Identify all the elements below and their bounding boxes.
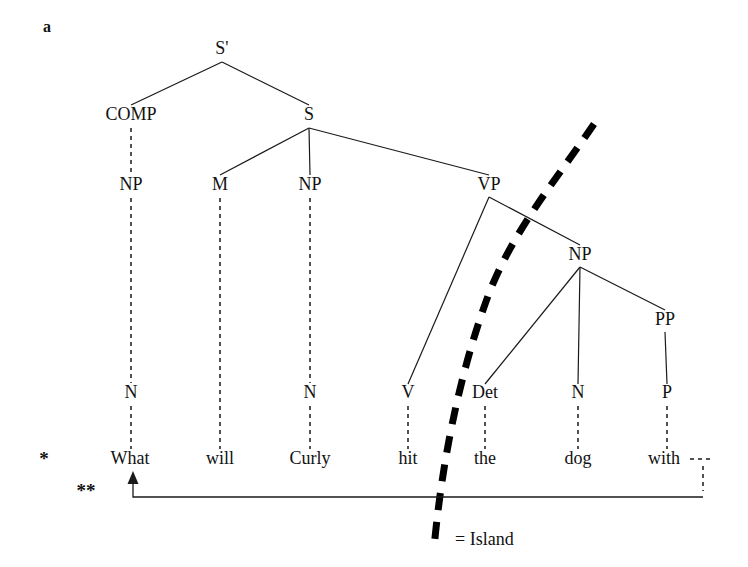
tree-terminal-t-the: the [474, 448, 496, 468]
tree-terminal-t-dog: dog [565, 448, 592, 468]
tree-node-np2: NP [298, 174, 321, 194]
tree-node-np3: NP [568, 244, 591, 264]
movement-arrowhead-icon [128, 471, 139, 484]
tree-edge-s-np2 [309, 128, 310, 175]
trace-marker-dashes [690, 459, 712, 491]
tree-edge-np3-pp [580, 267, 665, 310]
tree-terminal-t-curly: Curly [289, 448, 330, 468]
wh-movement-arc [133, 477, 703, 497]
tree-node-vp: VP [477, 174, 500, 194]
figure-canvas: a S'COMPSNPMNPVPNPPPNNVDetNP WhatwillCur… [0, 0, 748, 567]
tree-edge-pp-p [665, 332, 667, 384]
tree-terminal-t-hit: hit [398, 448, 417, 468]
syntax-tree-diagram: a S'COMPSNPMNPVPNPPPNNVDetNP WhatwillCur… [0, 0, 748, 567]
tree-terminal-t-will: will [206, 448, 234, 468]
tree-node-pp: PP [655, 309, 675, 329]
tree-edge-s-vp [309, 128, 489, 175]
tree-edge-np3-det [485, 267, 580, 384]
tree-node-det: Det [472, 382, 498, 402]
tree-terminal-t-what: What [111, 448, 150, 468]
tree-edge-vp-v [408, 197, 489, 384]
tree-node-sbar: S' [215, 38, 228, 58]
panel-label-a: a [43, 18, 51, 35]
tree-node-n1: N [125, 382, 138, 402]
tree-node-p: P [662, 382, 672, 402]
tree-terminal-words: WhatwillCurlyhitthedogwith [111, 448, 681, 468]
tree-node-n2: N [304, 382, 317, 402]
grammaticality-star-double: ** [77, 480, 96, 501]
tree-solid-branches [131, 62, 667, 384]
tree-edge-sbar-comp [131, 62, 222, 105]
tree-node-np1: NP [119, 174, 142, 194]
tree-node-n3: N [572, 382, 585, 402]
tree-edge-sbar-s [222, 62, 309, 105]
tree-edge-np3-n3 [578, 267, 580, 384]
island-boundary-curve [434, 124, 594, 548]
grammaticality-star-single: * [39, 448, 49, 469]
tree-edge-s-m [220, 128, 309, 175]
tree-node-labels: S'COMPSNPMNPVPNPPPNNVDetNP [105, 38, 675, 402]
tree-node-s: S [304, 104, 314, 124]
tree-node-v: V [402, 382, 415, 402]
tree-terminal-t-with: with [648, 448, 680, 468]
island-legend-label: = Island [455, 529, 514, 549]
tree-node-m: M [212, 174, 228, 194]
tree-node-comp: COMP [105, 104, 156, 124]
